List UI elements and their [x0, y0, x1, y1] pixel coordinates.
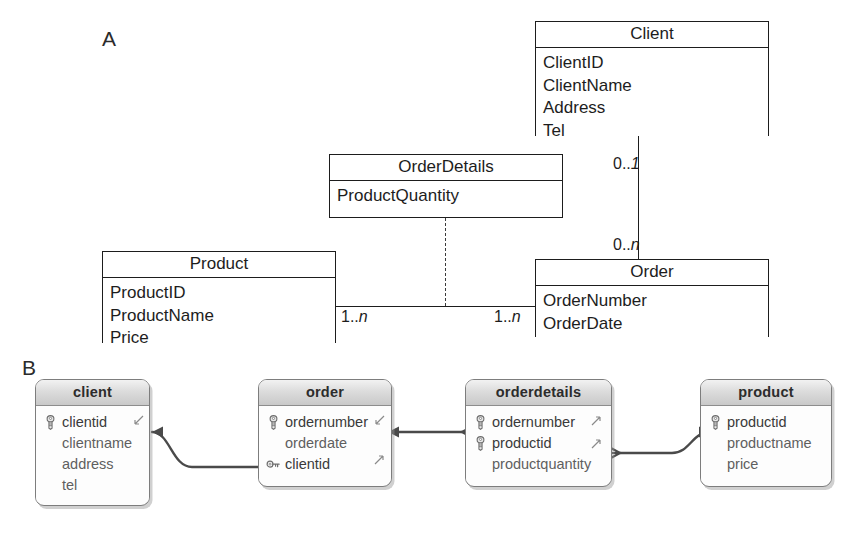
uml-class-client-attributes: ClientID ClientName Address Tel — [536, 48, 768, 147]
multiplicity-order-end-bottom: 1..n — [494, 308, 521, 326]
db-field-ordernumber[interactable]: ordernumber — [259, 412, 391, 433]
multiplicity-order-end-top: 0..n — [613, 236, 640, 254]
uml-attribute: Address — [543, 97, 768, 119]
uml-attribute: OrderDate — [543, 313, 768, 335]
primary-key-icon — [708, 415, 723, 430]
db-table-product[interactable]: product productid productname — [700, 379, 832, 487]
foreign-key-icon — [266, 457, 281, 472]
multiplicity-italic: n — [631, 236, 640, 253]
db-table-client[interactable]: client clientid clientname — [35, 379, 150, 506]
db-field-price[interactable]: price — [701, 454, 831, 475]
db-field-clientname[interactable]: clientname — [36, 433, 149, 454]
db-field-label: productname — [727, 435, 812, 451]
db-field-orderdate[interactable]: orderdate — [259, 433, 391, 454]
db-table-orderdetails-title: orderdetails — [466, 380, 611, 406]
uml-class-order-title: Order — [536, 260, 768, 286]
db-field-clientid[interactable]: clientid — [36, 412, 149, 433]
multiplicity-text: 1.. — [494, 308, 512, 325]
multiplicity-product-end: 1..n — [341, 308, 368, 326]
multiplicity-text: 0.. — [613, 236, 631, 253]
db-field-label: productquantity — [492, 456, 591, 472]
db-field-ordernumber[interactable]: ordernumber — [466, 412, 611, 433]
db-field-productid[interactable]: productid — [466, 433, 611, 454]
uml-attribute: Price — [110, 327, 335, 349]
uml-class-order-attributes: OrderNumber OrderDate — [536, 286, 768, 340]
db-field-label: price — [727, 456, 758, 472]
primary-key-icon — [266, 415, 281, 430]
association-class-dashed-link — [445, 218, 446, 306]
multiplicity-italic: n — [359, 308, 368, 325]
multiplicity-client-end: 0..1 — [613, 155, 640, 173]
uml-class-product-title: Product — [103, 252, 335, 278]
uml-attribute: OrderNumber — [543, 290, 768, 312]
uml-attribute: ProductQuantity — [337, 185, 562, 207]
uml-class-product-attributes: ProductID ProductName Price — [103, 278, 335, 354]
figure-canvas: A Client ClientID ClientName Address Tel… — [0, 0, 867, 537]
db-field-label: clientname — [62, 435, 132, 451]
uml-class-order: Order OrderNumber OrderDate — [535, 259, 769, 337]
primary-key-icon — [473, 415, 488, 430]
db-field-address[interactable]: address — [36, 454, 149, 475]
primary-key-icon — [473, 436, 488, 451]
multiplicity-text: 1.. — [341, 308, 359, 325]
db-field-tel[interactable]: tel — [36, 475, 149, 496]
db-table-order-fields: ordernumber orderdate clientid — [259, 406, 391, 481]
db-table-order[interactable]: order ordernumber orderdate — [258, 379, 392, 487]
db-field-label: productid — [727, 414, 787, 430]
db-field-label: clientid — [285, 456, 330, 472]
db-field-label: address — [62, 456, 114, 472]
relationship-orderdetails-order — [388, 426, 474, 438]
relationship-orderdetails-product — [608, 427, 710, 460]
db-table-orderdetails[interactable]: orderdetails ordernumber — [465, 379, 612, 487]
panel-a-label: A — [102, 27, 116, 51]
db-table-orderdetails-fields: ordernumber productid productquant — [466, 406, 611, 481]
uml-attribute: Tel — [543, 120, 768, 142]
db-table-client-fields: clientid clientname address tel — [36, 406, 149, 502]
multiplicity-text: 0.. — [613, 155, 631, 172]
uml-attribute: ProductName — [110, 305, 335, 327]
uml-class-product: Product ProductID ProductName Price — [102, 251, 336, 343]
uml-class-client-title: Client — [536, 22, 768, 48]
db-field-label: ordernumber — [492, 414, 575, 430]
db-field-label: tel — [62, 477, 77, 493]
db-table-product-title: product — [701, 380, 831, 406]
uml-attribute: ClientID — [543, 52, 768, 74]
multiplicity-italic: n — [512, 308, 521, 325]
multiplicity-italic: 1 — [631, 155, 640, 172]
uml-attribute: ProductID — [110, 282, 335, 304]
db-field-productquantity[interactable]: productquantity — [466, 454, 611, 475]
db-table-order-title: order — [259, 380, 391, 406]
association-line-product-order — [336, 306, 535, 307]
uml-attribute: ClientName — [543, 75, 768, 97]
uml-class-orderdetails-attributes: ProductQuantity — [330, 181, 562, 212]
db-field-label: clientid — [62, 414, 107, 430]
db-field-label: productid — [492, 435, 552, 451]
uml-class-client: Client ClientID ClientName Address Tel — [535, 21, 769, 136]
db-field-clientid[interactable]: clientid — [259, 454, 391, 475]
db-table-product-fields: productid productname price — [701, 406, 831, 481]
primary-key-icon — [43, 415, 58, 430]
uml-class-orderdetails: OrderDetails ProductQuantity — [329, 154, 563, 218]
db-field-productid[interactable]: productid — [701, 412, 831, 433]
uml-class-orderdetails-title: OrderDetails — [330, 155, 562, 181]
db-field-label: ordernumber — [285, 414, 368, 430]
db-field-productname[interactable]: productname — [701, 433, 831, 454]
panel-b-label: B — [22, 356, 36, 380]
db-table-client-title: client — [36, 380, 149, 406]
db-field-label: orderdate — [285, 435, 347, 451]
